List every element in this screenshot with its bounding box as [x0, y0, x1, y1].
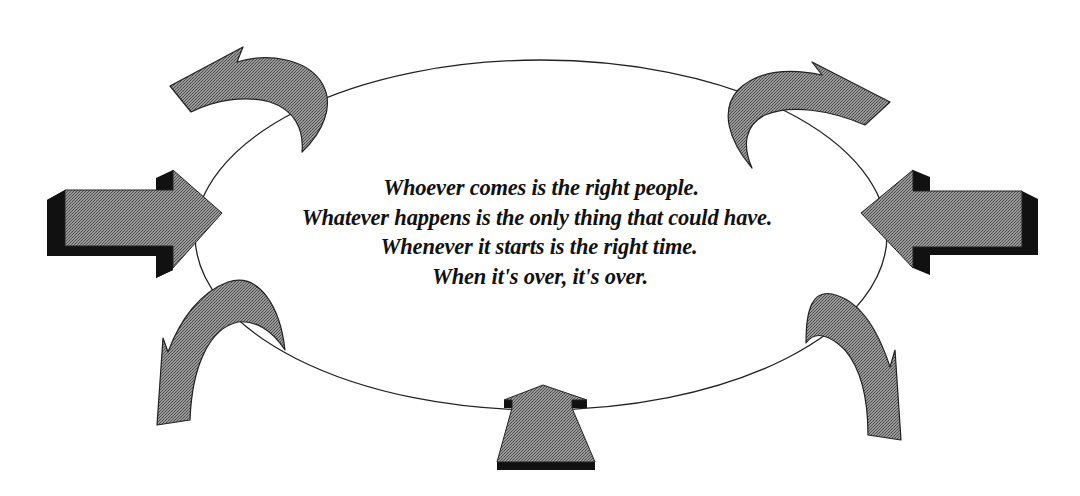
- quote-line-2: Whatever happens is the only thing that …: [0, 203, 1077, 233]
- quote-line-1: Whoever comes is the right people.: [1, 173, 1080, 203]
- curved-arrow-bottom-left-icon: [157, 280, 285, 425]
- curved-arrow-bottom-right-icon: [806, 293, 901, 440]
- block-arrow-bottom-icon: [497, 385, 595, 470]
- principles-quote: Whoever comes is the right people. Whate…: [0, 173, 1080, 291]
- quote-line-4: When it's over, it's over.: [0, 262, 1080, 292]
- curved-arrow-top-right-icon: [728, 62, 890, 168]
- curved-arrow-top-left-icon: [170, 47, 327, 152]
- quote-line-3: Whenever it starts is the right time.: [0, 232, 1079, 262]
